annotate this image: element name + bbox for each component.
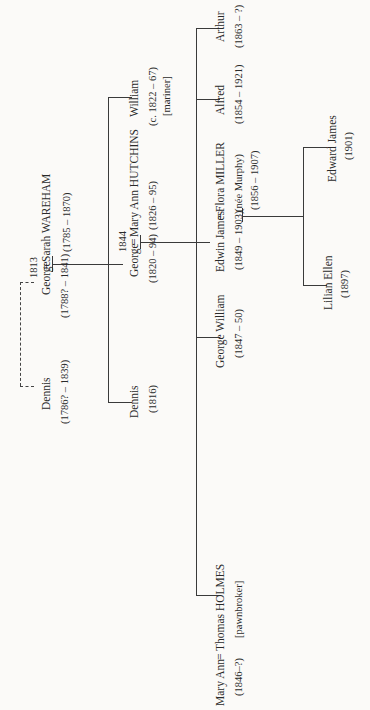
flora-miller-nee: (née Murphy): [232, 154, 245, 212]
thomas-holmes-note: [pawnbroker]: [232, 581, 245, 638]
gen2-to-edwin: [196, 242, 210, 243]
mary-ann-hutchins-dates: (1826 – 95): [146, 181, 159, 230]
lilian-ellen-dates: (1897): [338, 270, 351, 298]
alfred-dates: (1854 – 1921): [232, 65, 245, 125]
george-william-name: George William: [214, 294, 227, 368]
dennis-sr-dates: (1786? – 1839): [58, 360, 71, 424]
william-dates: (c. 1822 – 67): [146, 67, 159, 126]
edward-james-name: Edward James: [326, 115, 339, 182]
marriage-year-1813: 1813: [27, 257, 40, 278]
gen1-bus: [108, 97, 109, 403]
marriage-sign-1813: =: [40, 264, 53, 271]
edwin-james-name: Edwin James: [214, 211, 227, 272]
gen2-bus: [196, 28, 197, 596]
marriage-sign-holmes: =: [214, 654, 227, 661]
george-sr-dates: (1788? – 1841): [58, 254, 71, 318]
dashed-tick-george: [20, 282, 34, 283]
arthur-dates: (1863 – ?): [232, 5, 245, 48]
george-jr-name: George: [128, 243, 141, 277]
sarah-dates: (1785 – 1870): [60, 193, 73, 253]
edward-james-dates: (1901): [342, 132, 355, 160]
mary-ann-dates: (1846–?): [232, 658, 245, 696]
gen3-bus: [303, 147, 304, 286]
flora-miller-dates: (1856 – 1907): [248, 151, 261, 211]
arthur-name: Arthur: [214, 11, 227, 42]
marriage-sign-1844: =: [128, 239, 141, 246]
william-name: William: [128, 80, 141, 117]
mary-ann-hutchins-name: Mary Ann HUTCHINS: [128, 129, 141, 237]
lilian-ellen-name: Lilian Ellen: [322, 255, 335, 310]
marriage-sign-miller: =: [214, 214, 227, 221]
george-william-dates: (1847 – 50): [232, 309, 245, 358]
alfred-name: Alfred: [214, 85, 227, 115]
thomas-holmes-name: Thomas HOLMES: [214, 564, 227, 651]
sarah-name: Sarah WAREHAM: [40, 174, 53, 262]
flora-miller-name: Flora MILLER: [214, 142, 227, 212]
marriage-edwin-descent: [242, 216, 304, 217]
william-note: [mariner]: [160, 76, 173, 116]
george-jr-dates: (1820 – 94): [146, 234, 159, 283]
dashed-tick-dennis: [20, 386, 34, 387]
dennis-jr-name: Dennis: [128, 385, 141, 418]
edwin-james-dates: (1849 – 1903): [232, 211, 245, 271]
gen3-to-edward: [303, 147, 327, 148]
mary-ann-name: Mary Ann: [214, 659, 227, 706]
dennis-jr-dates: (1816): [146, 385, 159, 413]
gen1-to-george: [108, 264, 123, 265]
dennis-sr-name: Dennis: [40, 377, 53, 410]
dashed-sibling-line: [20, 282, 21, 386]
